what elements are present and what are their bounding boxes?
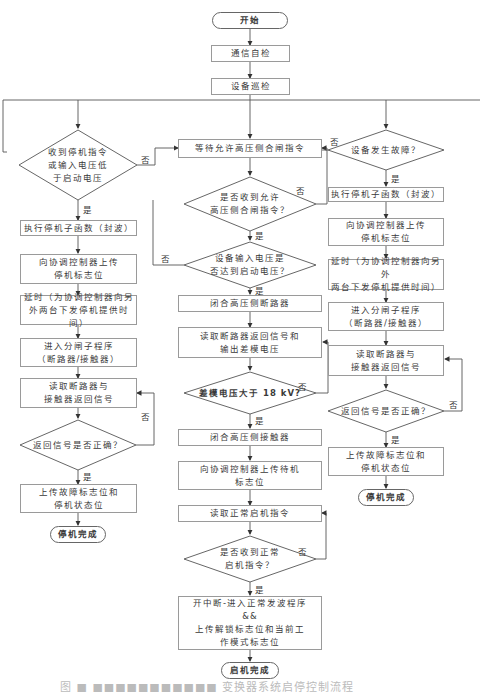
right-read-return-step: 读取断路器与 接触器返回信号 [328,345,444,376]
voltage-reached-decision: 设备输入电压是 否达到启动电压？ [195,251,305,279]
right-open-subroutine-step: 进入分闸子程序 （断路器/接触器） [328,302,444,331]
right-delay-step: 延时（为协调控制器向另外 两台下发停机提供时间） [328,259,444,290]
no-label-left-decision: 否 [141,153,150,165]
left-stop-decision: 收到停机指令 或输入电压低 于启动电压 [30,142,126,188]
left-exec-stop-step: 执行停机子函数（封波） [20,220,137,236]
no-label-received-start: 否 [298,545,307,557]
yes-label-right-check-return: 是 [391,433,400,445]
yes-label-left-check-return: 是 [83,470,92,482]
left-check-return-decision: 返回信号是否正确？ [24,437,132,453]
right-upload-stop-flag-step: 向协调控制器上传 停机标志位 [328,218,444,246]
received-start-command-decision: 是否收到正常 启机指令？ [195,545,305,573]
left-delay-step: 延时（为协调控制器向另 外两台下发停机提供时间） [20,295,137,325]
close-hv-contactor-step: 闭合高压侧接触器 [178,429,322,446]
no-label-voltage-reached: 否 [161,252,170,264]
right-upload-fault-step: 上传故障标志位和 停机状态位 [328,447,444,476]
wait-close-command-step: 等待允许高压侧合闸指令 [178,139,322,158]
no-label-left-check-return: 否 [141,410,150,422]
no-label-right-decision: 否 [330,135,339,147]
comm-self-check-step: 通信自检 [211,45,290,62]
left-stop-complete-terminal: 停机完成 [50,526,106,543]
no-label-diff-voltage: 否 [298,380,307,392]
diff-voltage-decision: 差模电压大于 18 kV? [192,385,308,401]
yes-label-diff-voltage: 是 [255,414,264,426]
upload-standby-flag-step: 向协调控制器上传待机 标志位 [178,461,322,490]
left-upload-stop-flag-step: 向协调控制器上传 停机标志位 [20,254,137,284]
start-terminal: 开始 [212,12,288,29]
yes-label-right-decision: 是 [391,172,400,184]
left-open-subroutine-step: 进入分闸子程序 （断路器/接触器） [20,338,137,367]
right-check-return-decision: 返回信号是否正确？ [332,403,440,419]
right-exec-stop-step: 执行停机子函数（封波） [328,187,444,202]
right-stop-complete-terminal: 停机完成 [358,489,414,506]
yes-label-left-decision: 是 [83,203,92,215]
no-label-right-check-return: 否 [449,398,458,410]
no-label-received-close: 否 [296,184,305,196]
start-program-step: 开中断-进入正常发波程序 && 上传解锁标志位和当前工 作模式标志位 [178,596,322,650]
left-upload-fault-step: 上传故障标志位和 停机状态位 [20,484,137,513]
read-start-command-step: 读取正常启机指令 [178,505,322,522]
device-patrol-step: 设备巡检 [211,78,290,95]
fault-occurred-decision: 设备发生故障？ [340,142,432,158]
yes-label-received-close: 是 [255,229,264,241]
yes-label-received-start: 是 [255,583,264,595]
start-complete-terminal: 启机完成 [221,662,279,679]
read-breaker-signal-step: 读取断路器返回信号和 输出差模电压 [178,327,322,358]
figure-caption: 图 ■ ■■■■■■■■■■■ 变换器系统启停控制流程 [60,678,440,692]
close-hv-breaker-step: 闭合高压侧断路器 [178,295,322,312]
left-read-return-step: 读取断路器与 接触器返回信号 [20,378,137,408]
yes-label-voltage-reached: 是 [255,284,264,296]
received-close-command-decision: 是否收到允许 高压侧合闸指令？ [195,190,305,218]
